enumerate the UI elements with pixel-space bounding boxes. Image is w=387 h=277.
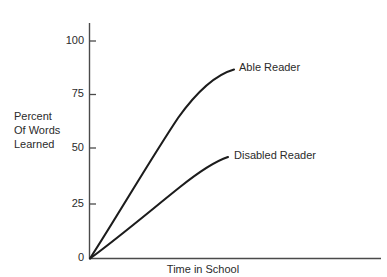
chart-canvas: 100 75 50 25 0 Percent Of Words Learned …	[0, 0, 387, 277]
y-axis-title-line-2: Of Words	[14, 124, 61, 136]
y-tick-label-100: 100	[66, 34, 84, 46]
y-axis-title: Percent Of Words Learned	[14, 110, 61, 150]
series-curve-disabled-reader	[90, 157, 228, 259]
chart-figure: 100 75 50 25 0 Percent Of Words Learned …	[0, 0, 387, 277]
y-tick-label-25: 25	[72, 197, 84, 209]
y-tick-label-0: 0	[78, 251, 84, 263]
y-tick-label-50: 50	[72, 141, 84, 153]
y-tick-label-75: 75	[72, 87, 84, 99]
x-axis-title: Time in School	[167, 263, 239, 275]
y-axis-tick-labels: 100 75 50 25 0	[66, 34, 84, 263]
series-label-able-reader: Able Reader	[239, 61, 300, 73]
series-label-disabled-reader: Disabled Reader	[234, 149, 316, 161]
y-axis-title-line-1: Percent	[14, 110, 52, 122]
y-axis-title-line-3: Learned	[14, 138, 54, 150]
y-axis-ticks	[90, 41, 97, 204]
